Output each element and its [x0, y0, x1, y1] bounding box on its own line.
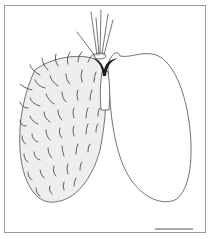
right-lobe	[108, 53, 191, 202]
figure-illustration	[0, 0, 213, 239]
left-lobe	[20, 56, 106, 202]
specimen-drawing	[0, 0, 213, 239]
central-column	[100, 72, 109, 110]
apical-setae	[77, 10, 113, 56]
